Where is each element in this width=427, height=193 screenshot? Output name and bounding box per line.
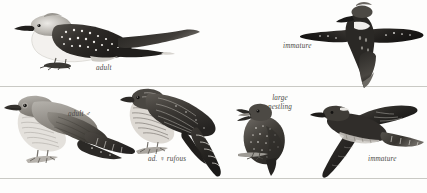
nape-patch (340, 108, 349, 111)
bill (310, 113, 326, 118)
figure-common-cuckoo-large-nestling (236, 102, 296, 176)
bill (4, 105, 21, 111)
caption-ad-female-rufous: ad. ♀ rufous (148, 155, 186, 164)
field-guide-plate: adult (0, 0, 427, 193)
figure-common-cuckoo-immature-flight (306, 92, 426, 180)
caption-large-nestling: large nestling (256, 94, 304, 111)
gape (238, 113, 250, 116)
eye (331, 111, 334, 114)
head (351, 6, 372, 19)
caption-adult-perched: adult (96, 64, 112, 73)
perch-branch (136, 147, 168, 154)
caption-adult-male: adult ♂ (68, 110, 91, 119)
tail (266, 158, 276, 176)
perch-branch (26, 156, 58, 163)
figure-common-cuckoo-female-rufous-perched (120, 84, 248, 178)
wing-left (300, 30, 351, 42)
tail (118, 30, 200, 48)
bill (120, 97, 134, 103)
eye (136, 96, 139, 99)
caption-immature-flight-bottom: immature (368, 155, 396, 164)
tail-lower (112, 48, 166, 57)
figure-great-spotted-cuckoo-immature-flight (298, 0, 427, 88)
bill (14, 26, 34, 31)
eye (37, 24, 40, 27)
eye (23, 104, 27, 108)
caption-immature-flight-top: immature (283, 42, 311, 51)
crest (356, 2, 372, 6)
feet (44, 63, 71, 69)
figure-common-cuckoo-adult-male-perched (4, 88, 136, 178)
